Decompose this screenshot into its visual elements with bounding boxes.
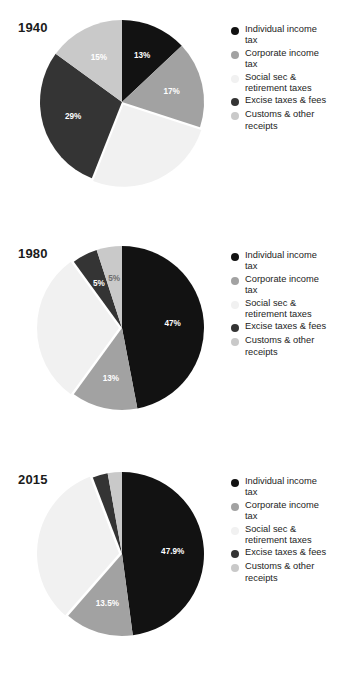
pie-slice-label: 13%: [103, 374, 120, 383]
legend-item-label: Individual income tax: [245, 250, 317, 273]
legend-bullet-individual-income-tax: [231, 253, 239, 261]
pie-figure: 13%17%29%15%: [36, 14, 208, 190]
legend-item-label: Social sec & retirement taxes: [245, 72, 312, 95]
legend-item-label: Excise taxes & fees: [245, 95, 326, 106]
legend-item-label: Individual income tax: [245, 476, 317, 499]
legend-item-label: Excise taxes & fees: [245, 547, 326, 558]
legend-item-label: Customs & other receipts: [245, 335, 314, 358]
legend-item-label: Social sec & retirement taxes: [245, 298, 312, 321]
pie-chart-block: 198047%13%5%5%Individual income taxCorpo…: [0, 226, 360, 452]
legend-bullet-customs-other-receipts: [231, 564, 239, 572]
legend-item: Customs & other receipts: [231, 561, 356, 584]
pie-slice-label: 15%: [91, 53, 108, 62]
legend-bullet-social-sec-retirement-taxes: [231, 527, 239, 535]
legend-bullet-individual-income-tax: [231, 479, 239, 487]
pie-slice-label: 13%: [134, 51, 151, 60]
pie-charts-container: 194013%17%29%15%Individual income taxCor…: [0, 0, 360, 678]
pie-slice-label: 13.5%: [96, 599, 120, 608]
legend-bullet-customs-other-receipts: [231, 112, 239, 120]
legend-bullet-excise-taxes-fees: [231, 550, 239, 558]
pie-chart-block: 201547.9%13.5%Individual income taxCorpo…: [0, 452, 360, 678]
legend-item: Excise taxes & fees: [231, 321, 356, 334]
legend-item-label: Corporate income tax: [245, 500, 319, 523]
chart-legend: Individual income taxCorporate income ta…: [231, 24, 356, 133]
legend-bullet-customs-other-receipts: [231, 338, 239, 346]
legend-bullet-corporate-income-tax: [231, 503, 239, 511]
pie-slice: [122, 246, 204, 409]
legend-item: Social sec & retirement taxes: [231, 298, 356, 321]
legend-bullet-excise-taxes-fees: [231, 324, 239, 332]
pie-svg: 47%13%5%5%: [36, 240, 208, 416]
pie-slice-label: 5%: [93, 279, 106, 288]
pie-slice-label: 29%: [65, 112, 82, 121]
legend-bullet-corporate-income-tax: [231, 277, 239, 285]
pie-slice-label: 47%: [164, 319, 181, 328]
pie-figure: 47%13%5%5%: [36, 240, 208, 416]
legend-item: Individual income tax: [231, 250, 356, 273]
legend-item: Customs & other receipts: [231, 335, 356, 358]
legend-bullet-individual-income-tax: [231, 27, 239, 35]
pie-svg: 47.9%13.5%: [36, 466, 208, 642]
legend-bullet-corporate-income-tax: [231, 51, 239, 59]
pie-slice-label: 5%: [108, 274, 121, 283]
pie-slice-label: 47.9%: [161, 547, 185, 556]
pie-svg: 13%17%29%15%: [36, 14, 208, 190]
legend-bullet-social-sec-retirement-taxes: [231, 75, 239, 83]
pie-figure: 47.9%13.5%: [36, 466, 208, 642]
legend-item: Corporate income tax: [231, 274, 356, 297]
legend-item-label: Individual income tax: [245, 24, 317, 47]
legend-bullet-excise-taxes-fees: [231, 98, 239, 106]
legend-item: Individual income tax: [231, 476, 356, 499]
legend-item: Excise taxes & fees: [231, 95, 356, 108]
legend-item: Customs & other receipts: [231, 109, 356, 132]
pie-slice-label: 17%: [163, 87, 180, 96]
chart-legend: Individual income taxCorporate income ta…: [231, 250, 356, 359]
legend-item-label: Corporate income tax: [245, 274, 319, 297]
legend-bullet-social-sec-retirement-taxes: [231, 301, 239, 309]
legend-item: Excise taxes & fees: [231, 547, 356, 560]
legend-item: Individual income tax: [231, 24, 356, 47]
legend-item: Corporate income tax: [231, 500, 356, 523]
pie-chart-block: 194013%17%29%15%Individual income taxCor…: [0, 0, 360, 226]
legend-item-label: Corporate income tax: [245, 48, 319, 71]
legend-item-label: Social sec & retirement taxes: [245, 524, 312, 547]
legend-item: Social sec & retirement taxes: [231, 524, 356, 547]
legend-item-label: Customs & other receipts: [245, 561, 314, 584]
chart-legend: Individual income taxCorporate income ta…: [231, 476, 356, 585]
legend-item-label: Customs & other receipts: [245, 109, 314, 132]
legend-item-label: Excise taxes & fees: [245, 321, 326, 332]
legend-item: Social sec & retirement taxes: [231, 72, 356, 95]
legend-item: Corporate income tax: [231, 48, 356, 71]
